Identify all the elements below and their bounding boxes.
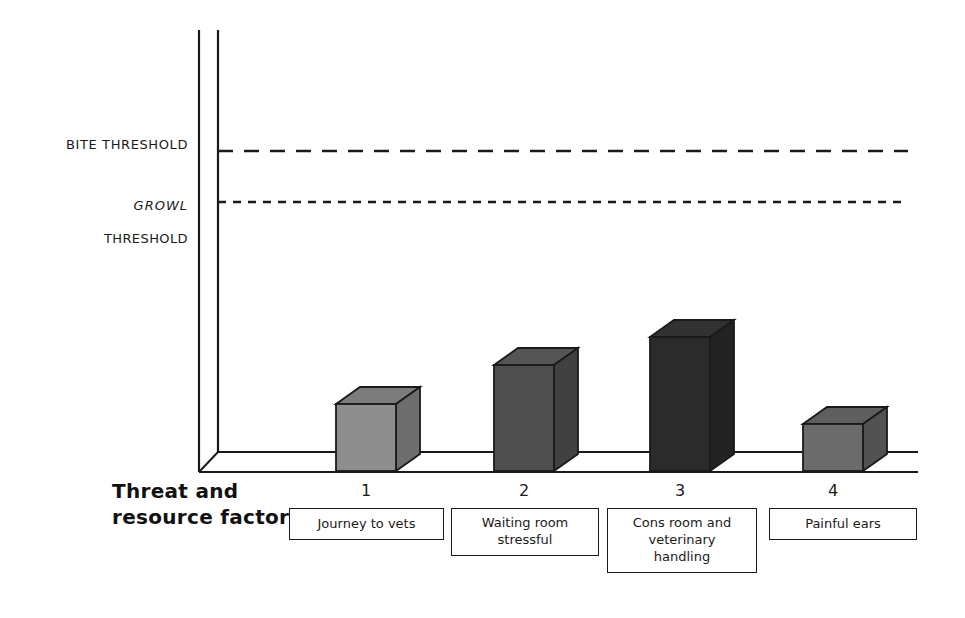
- growl-threshold-label-line2: THRESHOLD: [18, 231, 188, 247]
- bite-threshold-label: BITE THRESHOLD: [18, 137, 188, 153]
- growl-threshold-label-line1: GROWL: [18, 198, 188, 214]
- growl-threshold-label: GROWL THRESHOLD: [18, 182, 188, 263]
- category-box-3[interactable]: Cons room and veterinary handling: [607, 508, 757, 573]
- category-number-4: 4: [813, 481, 853, 500]
- category-box-1[interactable]: Journey to vets: [289, 508, 444, 540]
- x-axis-depth-connector: [199, 452, 218, 472]
- bar-3-side-face: [710, 320, 734, 471]
- axis-title: Threat and resource factors: [112, 478, 302, 531]
- bar-3[interactable]: [650, 320, 734, 471]
- category-number-1: 1: [346, 481, 386, 500]
- category-number-3: 3: [660, 481, 700, 500]
- figure-canvas: BITE THRESHOLD GROWL THRESHOLD Threat an…: [0, 0, 965, 618]
- bar-2[interactable]: [494, 348, 578, 471]
- bar-2-front-face: [494, 365, 554, 471]
- bar-4-front-face: [803, 424, 863, 471]
- bar-3-front-face: [650, 337, 710, 471]
- bar-1-front-face: [336, 404, 396, 471]
- category-number-2: 2: [504, 481, 544, 500]
- category-box-4[interactable]: Painful ears: [769, 508, 917, 540]
- category-box-2[interactable]: Waiting room stressful: [451, 508, 599, 556]
- bar-4[interactable]: [803, 407, 887, 471]
- bar-2-side-face: [554, 348, 578, 471]
- bar-1[interactable]: [336, 387, 420, 471]
